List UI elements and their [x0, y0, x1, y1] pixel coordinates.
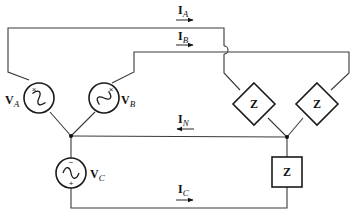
wire-line-b — [112, 52, 349, 90]
wire-va-neutral — [50, 112, 71, 136]
source-va: × VA — [5, 83, 54, 113]
svg-text:IB: IB — [178, 29, 189, 45]
svg-text:Z: Z — [313, 97, 321, 111]
current-ia: IA — [176, 3, 193, 20]
svg-text:Z: Z — [250, 97, 258, 111]
vb-label: VB — [121, 93, 136, 109]
load-zc: Z — [272, 157, 302, 187]
source-vb: × VB — [89, 83, 136, 113]
source-neutral-node — [69, 134, 73, 138]
wire-zb-neutral — [287, 118, 303, 137]
svg-text:IC: IC — [178, 182, 190, 198]
svg-text:+: + — [69, 179, 74, 188]
svg-text:×: × — [32, 85, 37, 94]
va-label: VA — [5, 93, 20, 109]
svg-text:IN: IN — [178, 112, 190, 128]
vc-label: VC — [90, 167, 106, 183]
wire-za-neutral — [268, 118, 287, 137]
wire-crossover-hop — [224, 46, 228, 54]
wire-line-a-lower — [224, 54, 240, 90]
wire-neutral — [71, 136, 287, 137]
current-ic: IC — [176, 182, 193, 200]
load-neutral-node — [285, 135, 289, 139]
current-in: IN — [177, 112, 194, 129]
svg-text:IA: IA — [178, 3, 189, 19]
wire-vb-neutral — [71, 112, 95, 136]
svg-text:×: × — [109, 85, 114, 94]
wire-line-a — [8, 28, 224, 80]
source-vc: − + VC — [56, 158, 106, 189]
current-ib: IB — [176, 29, 193, 45]
circuit-diagram: × VA × VB − + VC Z Z Z IA IB IN — [0, 0, 358, 220]
svg-text:−: − — [69, 158, 74, 167]
svg-text:Z: Z — [283, 165, 291, 179]
